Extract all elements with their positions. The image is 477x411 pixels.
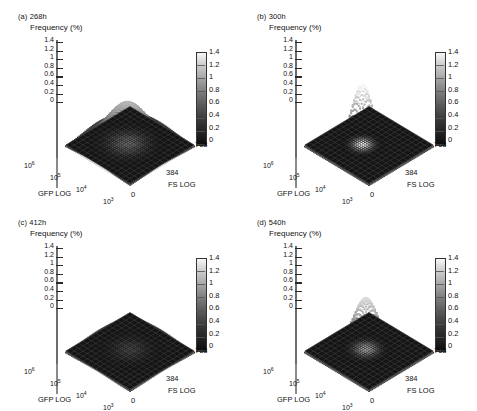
colorbar-tick-label: 0.8 [448,86,458,94]
z-tick-mark [295,265,302,266]
z-tick-mark [56,59,63,60]
x-tick-label: 104 [315,184,326,193]
x-axis-title: GFP LOG [277,395,310,404]
colorbar-tick-labels: 1.41.210.80.60.40.20 [448,254,477,354]
y-axis-title: FS LOG [407,386,435,395]
y-tick-label: 0 [370,190,374,199]
z-tick-label: 0.2 [283,294,293,301]
z-tick-mark [295,248,302,249]
z-axis-title: Frequency (%) [269,229,321,238]
colorbar-tick-labels: 1.41.210.80.60.40.20 [448,48,477,148]
z-tick-label: 0.2 [44,88,54,95]
z-tick-mark [295,308,302,309]
x-tick-label: 105 [50,172,61,181]
z-tick-label: 0.8 [44,268,54,275]
z-tick-label: 0.4 [283,285,293,292]
colorbar-tick-label: 0.8 [209,86,219,94]
z-tick-mark [56,291,63,292]
z-tick-mark [56,282,63,283]
z-tick-label: 0.2 [283,88,293,95]
x-tick-label: 105 [289,378,300,387]
z-tick-mark [295,76,302,77]
colorbar-tick-label: 0.6 [448,304,458,312]
z-tick-mark [295,282,302,283]
z-tick-label: 1.2 [44,251,54,258]
x-tick-label: 104 [315,390,326,399]
z-tick-label: 0.6 [283,70,293,77]
z-axis-tick-labels: 1.41.210.80.60.40.20 [22,36,54,98]
panel-title: (a) 268h [18,12,47,21]
z-tick-mark [56,51,63,52]
x-tick-label: 106 [263,366,274,375]
panel-c: (c) 412h Frequency (%) 1.41.210.80.60.40… [0,206,238,411]
colorbar-tick-label: 0.8 [448,292,458,300]
z-tick-label: 0.8 [283,268,293,275]
colorbar-tick-label: 1 [448,279,452,287]
colorbar-tick-label: 0 [209,342,213,350]
x-axis-title: GFP LOG [277,189,310,198]
z-tick-label: 0 [289,96,293,103]
z-tick-mark [295,59,302,60]
colorbar-tick-label: 1.2 [209,267,219,275]
colorbar-tick-label: 0.4 [209,111,219,119]
x-tick-label: 106 [263,160,274,169]
y-tick-label: 384 [166,374,179,383]
z-tick-label: 1.4 [44,242,54,249]
z-tick-label: 0 [289,302,293,309]
z-tick-mark [56,85,63,86]
z-tick-label: 0.2 [44,294,54,301]
x-tick-label: 106 [24,366,35,375]
z-axis-title: Frequency (%) [269,23,321,32]
z-tick-label: 0.4 [283,79,293,86]
y-tick-label: 384 [405,168,418,177]
z-tick-mark [56,248,63,249]
z-axis-title: Frequency (%) [30,23,82,32]
z-axis-title: Frequency (%) [30,229,82,238]
colorbar-tick-label: 0.2 [209,124,219,132]
panel-title: (b) 300h [257,12,286,21]
y-tick-label: 0 [131,190,135,199]
z-tick-mark [295,257,302,258]
x-tick-label: 103 [103,196,114,205]
z-tick-label: 0.6 [44,276,54,283]
z-tick-label: 0.8 [283,62,293,69]
colorbar-tick-labels: 1.41.210.80.60.40.20 [209,254,239,354]
z-tick-label: 0 [50,96,54,103]
y-tick-label: 768 [195,140,208,149]
colorbar-tick-label: 0.2 [209,330,219,338]
y-tick-label: 768 [434,140,447,149]
colorbar-tick-label: 0.2 [448,330,458,338]
z-axis-tick-labels: 1.41.210.80.60.40.20 [261,242,293,304]
z-tick-mark [56,102,63,103]
y-tick-label: 0 [131,396,135,405]
z-tick-mark [56,308,63,309]
z-tick-label: 1.2 [44,45,54,52]
z-tick-label: 0.4 [44,79,54,86]
z-tick-label: 0.8 [44,62,54,69]
z-tick-mark [295,85,302,86]
z-tick-mark [295,51,302,52]
panel-b: (b) 300h Frequency (%) 1.41.210.80.60.40… [239,0,477,205]
x-tick-label: 104 [76,184,87,193]
z-axis-line [56,40,58,160]
z-tick-mark [56,76,63,77]
z-axis-tick-labels: 1.41.210.80.60.40.20 [22,242,54,304]
x-tick-label: 103 [103,402,114,411]
colorbar-tick-label: 0.6 [209,98,219,106]
colorbar-tick-label: 0 [448,342,452,350]
z-axis-line [295,246,297,366]
colorbar-tick-label: 0.4 [448,317,458,325]
colorbar-tick-label: 1.4 [209,48,219,56]
colorbar-ticks [435,258,444,350]
colorbar-tick-label: 1.4 [209,254,219,262]
x-tick-label: 103 [342,196,353,205]
x-axis-title: GFP LOG [38,189,71,198]
y-tick-label: 384 [405,374,418,383]
z-tick-label: 1 [289,53,293,60]
x-tick-label: 106 [24,160,35,169]
colorbar-ticks [435,52,444,144]
colorbar-tick-label: 0 [448,136,452,144]
x-tick-label: 104 [76,390,87,399]
y-axis-title: FS LOG [407,180,435,189]
panel-title: (c) 412h [18,218,46,227]
